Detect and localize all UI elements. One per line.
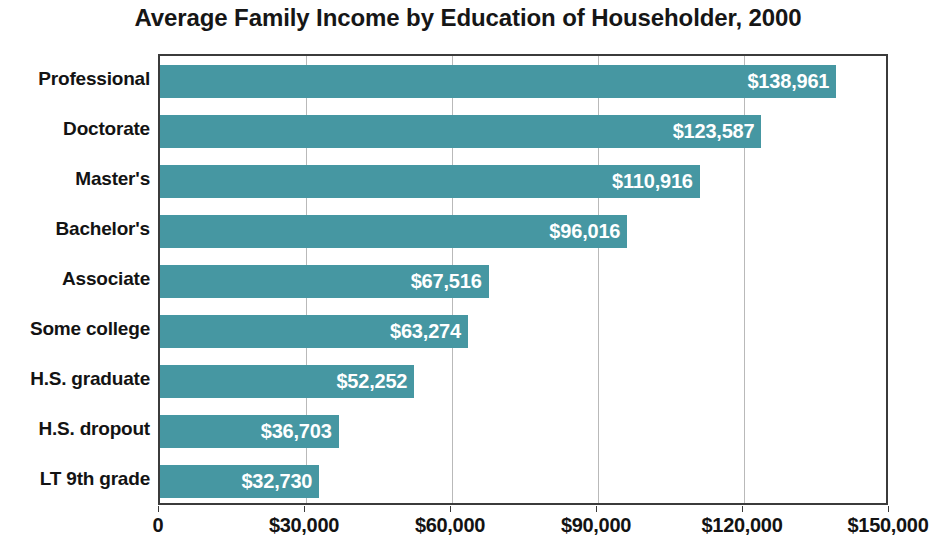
x-axis-tick-label: $150,000	[847, 514, 928, 537]
bar-value-label: $63,274	[390, 320, 468, 343]
bar-value-label: $52,252	[336, 370, 414, 393]
category-label: Bachelor's	[0, 218, 150, 240]
x-axis-tick-labels: 0$30,000$60,000$90,000$120,000$150,000	[0, 506, 936, 537]
bar-value-label: $36,703	[261, 420, 339, 443]
bar-row: $123,587	[160, 115, 888, 148]
bar[interactable]: $63,274	[160, 315, 468, 348]
category-label: Professional	[0, 68, 150, 90]
x-axis-tick-mark	[742, 506, 743, 512]
bar[interactable]: $96,016	[160, 215, 627, 248]
bar[interactable]: $32,730	[160, 465, 319, 498]
category-label: Master's	[0, 168, 150, 190]
x-axis-tick-mark	[450, 506, 451, 512]
bar-row: $110,916	[160, 165, 888, 198]
x-axis-tick-mark	[888, 506, 889, 512]
x-axis-tick-label: $60,000	[415, 514, 485, 537]
x-axis-tick-mark	[596, 506, 597, 512]
category-label: H.S. dropout	[0, 418, 150, 440]
bar[interactable]: $36,703	[160, 415, 339, 448]
chart-container: Average Family Income by Education of Ho…	[0, 0, 936, 537]
bar-row: $32,730	[160, 465, 888, 498]
bar[interactable]: $52,252	[160, 365, 414, 398]
bar-value-label: $110,916	[612, 170, 700, 193]
bar[interactable]: $67,516	[160, 265, 489, 298]
category-label: Some college	[0, 318, 150, 340]
bar-row: $138,961	[160, 65, 888, 98]
bar-value-label: $32,730	[241, 470, 319, 493]
bar[interactable]: $123,587	[160, 115, 761, 148]
bar-value-label: $67,516	[411, 270, 489, 293]
bar-value-label: $96,016	[549, 220, 627, 243]
bar[interactable]: $138,961	[160, 65, 836, 98]
category-label: H.S. graduate	[0, 368, 150, 390]
bar-row: $36,703	[160, 415, 888, 448]
bar-value-label: $123,587	[673, 120, 762, 143]
x-axis-tick-label: $90,000	[561, 514, 631, 537]
category-label: Associate	[0, 268, 150, 290]
category-label: Doctorate	[0, 118, 150, 140]
x-axis-tick-label: $30,000	[269, 514, 339, 537]
x-axis-tick-label: $120,000	[701, 514, 782, 537]
x-axis-tick-label: 0	[153, 514, 164, 537]
bar-row: $96,016	[160, 215, 888, 248]
bar-row: $52,252	[160, 365, 888, 398]
bar-row: $63,274	[160, 315, 888, 348]
chart-title: Average Family Income by Education of Ho…	[0, 4, 936, 32]
x-axis-tick-mark	[158, 506, 159, 512]
bar-value-label: $138,961	[747, 70, 836, 93]
bar[interactable]: $110,916	[160, 165, 700, 198]
category-label: LT 9th grade	[0, 468, 150, 490]
y-axis-category-labels: ProfessionalDoctorateMaster'sBachelor'sA…	[0, 54, 150, 505]
x-axis-tick-mark	[304, 506, 305, 512]
bar-row: $67,516	[160, 265, 888, 298]
plot-area: $138,961$123,587$110,916$96,016$67,516$6…	[158, 54, 888, 505]
